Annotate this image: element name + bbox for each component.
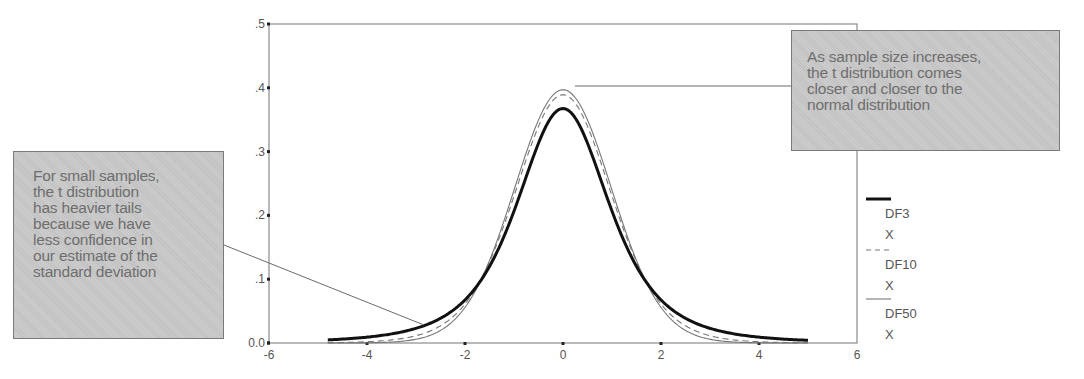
legend-label: X: [885, 278, 894, 293]
annotation-line: because we have: [33, 216, 223, 232]
annotation-line: the t distribution comes: [807, 65, 1059, 81]
annotation-line: For small samples,: [33, 168, 223, 184]
annotation-line: has heavier tails: [33, 200, 223, 216]
legend-label: DF3: [885, 206, 910, 221]
x-tick-mark: [660, 342, 663, 345]
y-tick-label: .1: [255, 272, 265, 286]
x-tick-label: -4: [362, 348, 373, 362]
legend-label: DF50: [885, 306, 917, 321]
y-tick-mark: [267, 278, 270, 281]
x-tick-mark: [562, 342, 565, 345]
legend: DF3XDF10XDF50X: [866, 199, 917, 342]
x-tick-label: 6: [854, 348, 861, 362]
y-tick-label: .3: [255, 145, 265, 159]
y-tick-label: .2: [255, 208, 265, 222]
y-tick-label: .5: [255, 17, 265, 31]
annotation-line: closer and closer to the: [807, 81, 1059, 97]
annotation-small-samples: For small samples, the t distribution ha…: [13, 151, 224, 339]
x-axis: -6-4-20246: [264, 342, 861, 363]
annotation-large-samples: As sample size increases, the t distribu…: [791, 30, 1060, 151]
annotation-line: the t distribution: [33, 184, 223, 200]
legend-label: X: [885, 227, 894, 242]
curve-df3: [328, 109, 808, 341]
annotation-line: normal distribution: [807, 97, 1059, 113]
curve-df50: [328, 90, 808, 343]
x-tick-label: -2: [460, 348, 471, 362]
legend-label: X: [885, 327, 894, 342]
y-tick-mark: [267, 23, 270, 26]
annotation-line: As sample size increases,: [807, 49, 1059, 65]
x-tick-label: -6: [264, 348, 275, 362]
y-tick-label: .4: [255, 81, 265, 95]
curve-df10: [328, 95, 808, 343]
annotation-line: less confidence in: [33, 232, 223, 248]
distribution-curves: [328, 90, 808, 343]
origin-mark: [267, 342, 270, 345]
annotation-line: our estimate of the: [33, 248, 223, 264]
x-tick-label: 2: [658, 348, 665, 362]
x-tick-label: 4: [756, 348, 763, 362]
y-axis: 0.0.1.2.3.4.5: [248, 17, 270, 350]
y-tick-mark: [267, 214, 270, 217]
legend-label: DF10: [885, 257, 917, 272]
y-tick-mark: [267, 86, 270, 89]
y-tick-mark: [267, 150, 270, 153]
x-tick-label: 0: [560, 348, 567, 362]
x-tick-mark: [464, 342, 467, 345]
plot-area-frame: [269, 24, 857, 343]
annotation-line: standard deviation: [33, 264, 223, 280]
